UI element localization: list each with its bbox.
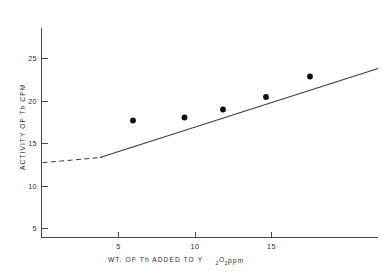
x-tick-label-5: 5 bbox=[116, 242, 120, 251]
y-axis-tick-labels: 5 10 15 20 25 bbox=[28, 54, 37, 233]
axes-group bbox=[42, 28, 379, 238]
data-point-2[interactable] bbox=[182, 115, 188, 121]
x-axis-title-units: ppm bbox=[228, 257, 244, 265]
y-tick-label-20: 20 bbox=[28, 97, 37, 106]
y-tick-label-15: 15 bbox=[28, 139, 37, 148]
scatter-plot-canvas: 5 10 15 20 25 5 10 15 ACTIVITY OF Th CPM… bbox=[0, 0, 392, 271]
y-tick-label-5: 5 bbox=[33, 224, 37, 233]
data-point-4[interactable] bbox=[263, 94, 269, 100]
x-axis-title-pre: WT. OF Th ADDED TO Y bbox=[108, 256, 203, 263]
data-point-5[interactable] bbox=[307, 74, 313, 80]
fit-line-solid bbox=[100, 69, 378, 158]
fit-line-group bbox=[43, 69, 379, 163]
y-tick-label-25: 25 bbox=[28, 54, 37, 63]
x-tick-label-15: 15 bbox=[267, 242, 276, 251]
x-axis-tick-labels: 5 10 15 bbox=[116, 242, 276, 251]
y-axis-title: ACTIVITY OF Th CPM bbox=[19, 84, 26, 170]
y-axis-ticks bbox=[42, 59, 48, 229]
x-tick-label-10: 10 bbox=[191, 242, 200, 251]
data-point-1[interactable] bbox=[130, 118, 136, 124]
x-axis-ticks bbox=[119, 232, 272, 238]
x-axis-title: WT. OF Th ADDED TO Y 2 O 3 ppm bbox=[108, 256, 244, 266]
y-tick-label-10: 10 bbox=[28, 182, 37, 191]
data-point-3[interactable] bbox=[220, 107, 226, 113]
fit-line-dashed-extrapolation bbox=[43, 157, 103, 163]
chart-figure: 5 10 15 20 25 5 10 15 ACTIVITY OF Th CPM… bbox=[0, 0, 392, 271]
